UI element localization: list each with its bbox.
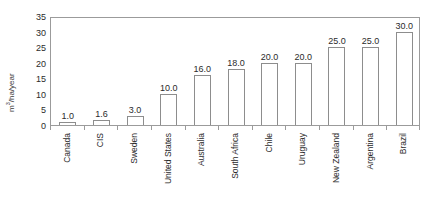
bar-value-label: 3.0	[118, 106, 152, 115]
bar	[362, 47, 379, 125]
x-axis-category-label: South Africa	[230, 133, 240, 179]
y-axis-title-exponent: 3	[5, 102, 11, 105]
x-axis-category-label-slot: New Zealand	[319, 131, 353, 198]
x-axis-tick-mark	[386, 126, 387, 130]
y-axis-tick-label: 30	[36, 28, 46, 37]
bar-value-label: 18.0	[219, 59, 253, 68]
bar-chart-figure: m3/ha/year 05101520253035 1.01.63.010.01…	[0, 0, 433, 198]
bar-value-label: 1.6	[84, 110, 118, 119]
x-axis-tick-mark	[419, 126, 420, 130]
plot-area: 1.01.63.010.016.018.020.020.025.025.030.…	[50, 17, 420, 126]
y-axis-tick-label: 0	[41, 122, 46, 131]
x-axis-category-label: United States	[163, 133, 173, 184]
x-axis-tick-mark	[84, 126, 85, 130]
bar	[160, 94, 177, 125]
clipped-header-text	[0, 0, 433, 7]
x-axis-tick-mark	[218, 126, 219, 130]
bar	[228, 69, 245, 125]
bar-value-label: 30.0	[387, 22, 421, 31]
y-axis-tick-label: 25	[36, 44, 46, 53]
x-axis-category-label-slot: Uruguay	[285, 131, 319, 198]
y-axis-tick-label: 15	[36, 75, 46, 84]
x-axis-category-label-slot: Australia	[185, 131, 219, 198]
bar-value-label: 10.0	[152, 84, 186, 93]
y-axis-tick-label: 35	[36, 13, 46, 22]
y-axis-tick-label: 20	[36, 59, 46, 68]
y-axis-tick-label: 5	[41, 106, 46, 115]
x-axis-category-label-slot: Argentina	[353, 131, 387, 198]
bar	[59, 122, 76, 125]
y-axis-tick-labels: 05101520253035	[26, 0, 46, 198]
x-axis-category-label-slot: United States	[151, 131, 185, 198]
x-axis-category-label: Argentina	[365, 133, 375, 169]
x-axis-category-label: Sweden	[129, 133, 139, 164]
x-axis-tick-mark	[185, 126, 186, 130]
y-axis-title-base: m	[7, 105, 16, 112]
bar	[396, 32, 413, 125]
y-axis-tick-label: 10	[36, 90, 46, 99]
x-axis-tick-mark	[117, 126, 118, 130]
x-axis-tick-mark	[252, 126, 253, 130]
bar	[127, 116, 144, 125]
x-axis-category-label: Brazil	[398, 133, 408, 154]
x-axis-tick-mark	[50, 126, 51, 130]
x-axis-category-labels: CanadaCISSwedenUnited StatesAustraliaSou…	[50, 131, 420, 198]
bar-value-label: 1.0	[51, 112, 85, 121]
y-axis-title-suffix: /ha/year	[7, 73, 16, 102]
x-axis-category-label-slot: Sweden	[117, 131, 151, 198]
x-axis-tick-mark	[353, 126, 354, 130]
bar-value-label: 25.0	[354, 37, 388, 46]
bar	[328, 47, 345, 125]
bar-value-label: 25.0	[320, 37, 354, 46]
x-axis-category-label: CIS	[95, 133, 105, 147]
bar-value-label: 20.0	[286, 53, 320, 62]
x-axis-category-label-slot: CIS	[84, 131, 118, 198]
x-axis-tick-mark	[285, 126, 286, 130]
x-axis-category-label: Chile	[264, 133, 274, 152]
x-axis-tick-mark	[151, 126, 152, 130]
x-axis-category-label-slot: South Africa	[218, 131, 252, 198]
bar	[295, 63, 312, 125]
bar-value-label: 16.0	[185, 65, 219, 74]
bar	[194, 75, 211, 125]
x-axis-category-label-slot: Canada	[50, 131, 84, 198]
x-axis-category-label-slot: Chile	[252, 131, 286, 198]
x-axis-category-label-slot: Brazil	[386, 131, 420, 198]
bar	[261, 63, 278, 125]
x-axis-category-label: Australia	[196, 133, 206, 166]
x-axis-category-label: Uruguay	[297, 133, 307, 165]
x-axis-category-label: Canada	[62, 133, 72, 163]
bar-value-label: 20.0	[253, 53, 287, 62]
bar	[93, 120, 110, 125]
x-axis-category-label: New Zealand	[331, 133, 341, 183]
x-axis-tick-mark	[319, 126, 320, 130]
